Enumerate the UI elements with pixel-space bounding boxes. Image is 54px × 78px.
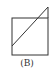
figure-label: (B) bbox=[0, 58, 54, 68]
square-shape bbox=[12, 18, 48, 55]
diagonal-line bbox=[12, 7, 48, 46]
